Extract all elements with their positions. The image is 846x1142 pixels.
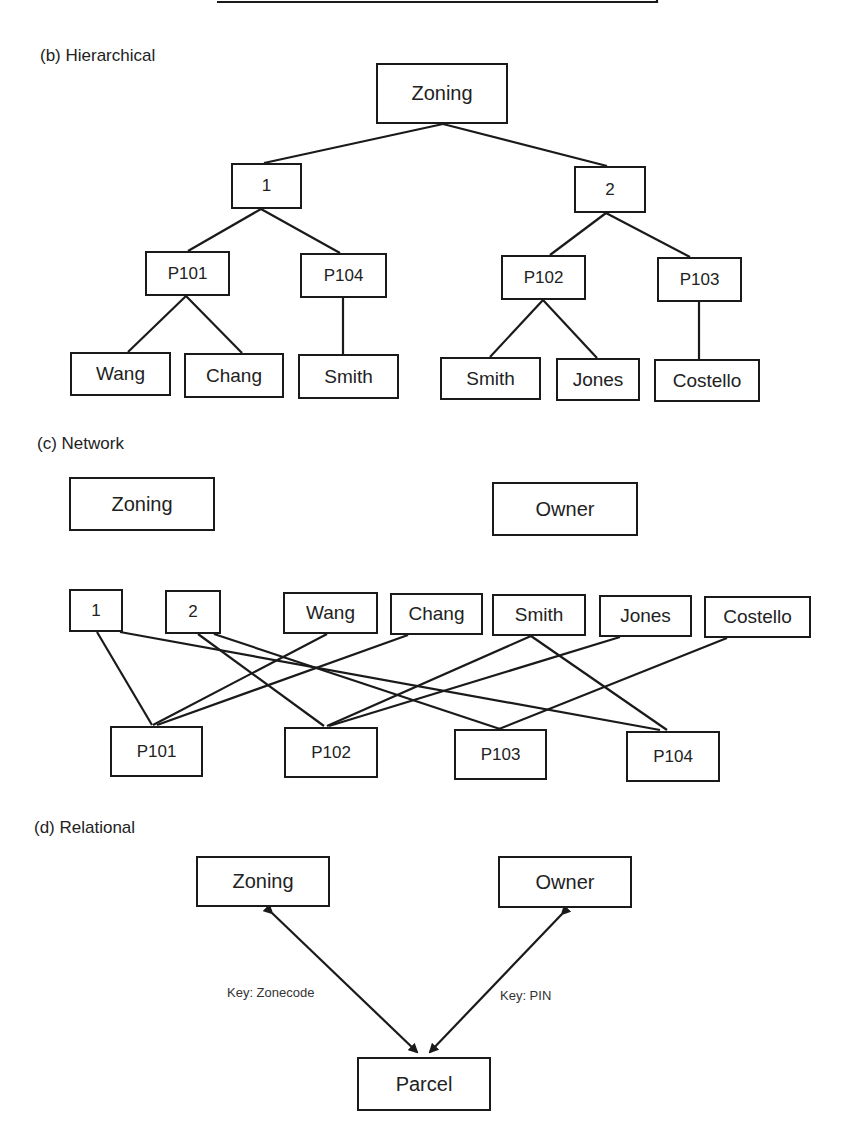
net-node-p103: P103 [454,729,547,780]
hier-node-owner-wang: Wang [70,352,171,396]
net-node-owner-smith: Smith [492,594,586,636]
net-node-p101: P101 [110,726,203,777]
hier-node-zone-2: 2 [574,166,646,213]
net-node-zone-1: 1 [69,589,123,632]
hier-node-owner-smith-2: Smith [440,357,541,400]
section-label-relational: (d) Relational [34,818,135,838]
section-label-network: (c) Network [37,434,124,454]
net-node-p104: P104 [626,731,720,782]
connector-lines [0,0,846,1142]
hier-node-p102: P102 [501,255,586,300]
hier-node-zone-1: 1 [231,163,302,209]
net-title-zoning: Zoning [69,477,215,531]
net-node-zone-2: 2 [165,590,221,634]
rel-table-parcel: Parcel [357,1057,491,1111]
rel-table-zoning: Zoning [196,856,330,907]
hier-node-zoning: Zoning [376,63,508,124]
key-label-pin: Key: PIN [500,988,551,1003]
net-node-p102: P102 [284,727,378,778]
hier-node-owner-jones: Jones [556,358,640,401]
hier-node-owner-smith: Smith [298,354,399,399]
net-node-owner-costello: Costello [704,596,811,638]
hier-node-p101: P101 [145,251,230,296]
hier-node-p103: P103 [657,257,742,302]
net-title-owner: Owner [492,482,638,536]
net-node-owner-chang: Chang [390,593,483,635]
hier-node-p104: P104 [300,253,387,298]
section-label-hierarchical: (b) Hierarchical [40,46,155,66]
net-node-owner-wang: Wang [283,592,378,634]
hier-node-owner-costello: Costello [654,359,760,402]
net-node-owner-jones: Jones [599,595,692,637]
rel-table-owner: Owner [498,856,632,908]
key-label-zonecode: Key: Zonecode [227,985,314,1000]
hier-node-owner-chang: Chang [184,353,284,398]
